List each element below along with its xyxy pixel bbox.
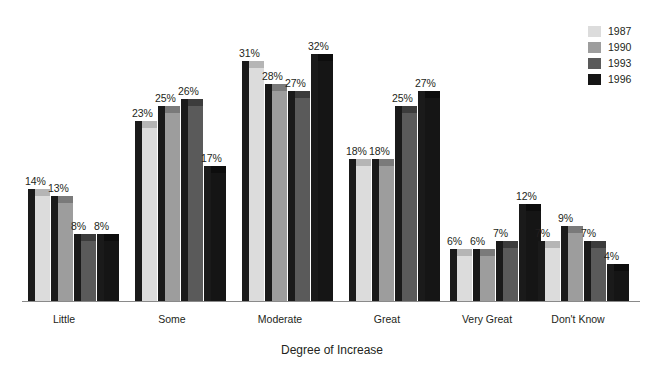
bar-top-wedge <box>561 226 568 233</box>
bar-side-face <box>584 248 591 301</box>
bar <box>211 173 226 301</box>
bar-top-face <box>591 241 606 248</box>
bar-value-label: 7% <box>581 227 596 239</box>
bar-top-face <box>480 249 495 256</box>
bar-front-face <box>568 233 583 301</box>
bar-side-face <box>372 166 379 301</box>
legend-item-1990: 1990 <box>588 40 631 55</box>
bar-side-face <box>418 98 425 301</box>
plot-area: 14%13%8%8%Little23%25%26%17%Some31%28%27… <box>0 0 665 379</box>
bar <box>614 271 629 301</box>
bar-front-face <box>457 256 472 301</box>
bar-top-face <box>457 249 472 256</box>
bar <box>249 68 264 301</box>
bar-value-label: 26% <box>178 85 199 97</box>
bar-value-label: 7% <box>535 227 550 239</box>
legend-swatch <box>588 58 601 69</box>
x-axis-category-label: Great <box>374 313 400 325</box>
bar-top-wedge <box>74 234 81 241</box>
bar <box>402 113 417 301</box>
bar-top-wedge <box>372 159 379 166</box>
bar-value-label: 27% <box>285 77 306 89</box>
bar <box>425 98 440 301</box>
bar-top-wedge <box>135 121 142 128</box>
bar-value-label: 12% <box>516 190 537 202</box>
bar-top-face <box>526 204 541 211</box>
bar-side-face <box>450 256 457 301</box>
bar-front-face <box>35 196 50 301</box>
bar-top-wedge <box>496 241 503 248</box>
bar-top-wedge <box>204 166 211 173</box>
bar-top-face <box>545 241 560 248</box>
bar-top-face <box>58 196 73 203</box>
bar-top-face <box>295 91 310 98</box>
bar-top-face <box>104 234 119 241</box>
bar-side-face <box>607 271 614 301</box>
legend-swatch <box>588 26 601 37</box>
bar-front-face <box>318 61 333 301</box>
bar-top-face <box>318 54 333 61</box>
bar <box>356 166 371 301</box>
bar-front-face <box>614 271 629 301</box>
bar-front-face <box>503 248 518 301</box>
bar-value-label: 8% <box>94 220 109 232</box>
bar-value-label: 31% <box>239 47 260 59</box>
bar-top-wedge <box>288 91 295 98</box>
bar-top-wedge <box>242 61 249 68</box>
bar-top-wedge <box>607 264 614 271</box>
legend-item-1996: 1996 <box>588 72 631 87</box>
bar-top-face <box>425 91 440 98</box>
bar <box>503 248 518 301</box>
bar-top-wedge <box>519 204 526 211</box>
bar-value-label: 25% <box>392 92 413 104</box>
bar <box>568 233 583 301</box>
bar-top-face <box>142 121 157 128</box>
bar <box>165 113 180 301</box>
bar-chart: 14%13%8%8%Little23%25%26%17%Some31%28%27… <box>0 0 665 379</box>
bar <box>104 241 119 301</box>
legend-swatch <box>588 42 601 53</box>
bar-side-face <box>519 211 526 301</box>
bar-top-face <box>614 264 629 271</box>
bar-top-wedge <box>395 106 402 113</box>
bar-value-label: 7% <box>493 227 508 239</box>
x-axis-line <box>22 301 640 302</box>
bar-top-wedge <box>450 249 457 256</box>
bar-front-face <box>295 98 310 301</box>
bar-side-face <box>349 166 356 301</box>
bar-top-face <box>503 241 518 248</box>
bar-value-label: 6% <box>470 235 485 247</box>
bar-side-face <box>496 248 503 301</box>
bar-side-face <box>242 68 249 301</box>
bar-top-wedge <box>349 159 356 166</box>
bar-side-face <box>97 241 104 301</box>
bar <box>58 203 73 301</box>
chart-legend: 1987199019931996 <box>588 24 631 88</box>
bar-top-wedge <box>265 84 272 91</box>
bar-top-face <box>379 159 394 166</box>
bar-value-label: 13% <box>48 182 69 194</box>
bar-front-face <box>81 241 96 301</box>
bar-top-face <box>402 106 417 113</box>
bar-value-label: 9% <box>558 212 573 224</box>
bar <box>295 98 310 301</box>
bar-front-face <box>249 68 264 301</box>
bar-side-face <box>561 233 568 301</box>
legend-label: 1990 <box>608 42 631 53</box>
bar-value-label: 8% <box>71 220 86 232</box>
bar-side-face <box>311 61 318 301</box>
bar-side-face <box>181 106 188 301</box>
bar-top-wedge <box>28 189 35 196</box>
bar-top-face <box>165 106 180 113</box>
bar-top-face <box>81 234 96 241</box>
legend-item-1993: 1993 <box>588 56 631 71</box>
bar <box>272 91 287 301</box>
bar <box>379 166 394 301</box>
bar-value-label: 17% <box>201 152 222 164</box>
bar-side-face <box>473 256 480 301</box>
bar-top-wedge <box>158 106 165 113</box>
bar-front-face <box>480 256 495 301</box>
bar-front-face <box>402 113 417 301</box>
bar-top-wedge <box>418 91 425 98</box>
bar <box>457 256 472 301</box>
